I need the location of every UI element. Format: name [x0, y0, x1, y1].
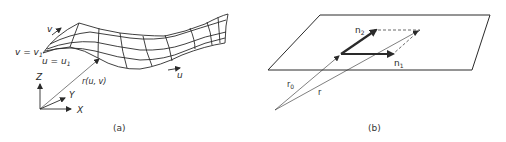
grid-u-line-1: [50, 20, 226, 44]
grid-v-line-1: [70, 23, 79, 47]
vector-r0: [275, 56, 339, 110]
label-r: r: [318, 88, 322, 97]
label-axis-x: X: [76, 105, 84, 115]
label-u-arrow: u: [177, 70, 183, 80]
plane: [268, 15, 490, 70]
figure-b: [268, 15, 490, 110]
label-r0: r0: [287, 80, 294, 90]
label-n1: n1: [394, 58, 404, 69]
label-v-arrow: v: [47, 24, 53, 34]
caption-b: (b): [368, 123, 381, 133]
label-n2: n2: [355, 25, 365, 36]
label-v-eq: v = v1: [15, 47, 43, 58]
dashed-line-right: [393, 30, 420, 54]
axis-y: [40, 98, 65, 109]
label-u-eq: u = u1: [42, 56, 71, 67]
label-axis-y: Y: [69, 90, 76, 100]
label-axis-z: Z: [35, 72, 43, 82]
grid-v-line-4: [143, 36, 152, 66]
label-r-uv: r(u, v): [82, 77, 106, 86]
surface-outline: [43, 14, 228, 69]
v-direction-arrow: [52, 28, 61, 35]
caption-a: (a): [113, 123, 126, 133]
grid-v-line-3: [120, 33, 127, 68]
